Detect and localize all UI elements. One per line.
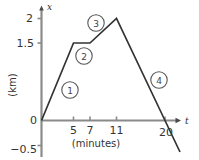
segment-2-label: 2 <box>81 52 87 62</box>
y-tick-label-1p5: 1.5 <box>17 37 35 50</box>
y-tick-label-2: 2 <box>26 12 33 25</box>
segment-annotation-1: 1 <box>62 82 78 98</box>
x-axis-unit-caption: (minutes) <box>72 138 120 149</box>
graph-canvas: 2 1.5 0 −0.5 5 7 11 20 x t (minutes) (km… <box>0 0 199 160</box>
position-time-graph-figure: 2 1.5 0 −0.5 5 7 11 20 x t (minutes) (km… <box>0 0 199 160</box>
x-tick-label-11: 11 <box>110 124 124 137</box>
segment-4-label: 4 <box>156 76 162 86</box>
segment-1-label: 1 <box>67 86 73 96</box>
x-tick-label-5: 5 <box>70 124 77 137</box>
segment-annotation-3: 3 <box>88 15 104 31</box>
y-axis-arrow-icon <box>39 6 44 11</box>
y-tick-label-minus0p5: −0.5 <box>10 143 37 156</box>
y-axis-unit-caption: (km) <box>7 73 18 96</box>
x-axis-variable-label: t <box>185 116 189 126</box>
x-tick-label-7: 7 <box>87 124 94 137</box>
x-tick-label-20: 20 <box>159 126 173 139</box>
segment-3-label: 3 <box>93 19 99 29</box>
segment-annotation-2: 2 <box>76 48 92 64</box>
y-tick-label-0: 0 <box>30 114 37 127</box>
x-axis-arrow-icon <box>176 118 182 123</box>
segment-annotation-4: 4 <box>151 72 167 88</box>
y-axis-variable-label: x <box>47 2 52 12</box>
